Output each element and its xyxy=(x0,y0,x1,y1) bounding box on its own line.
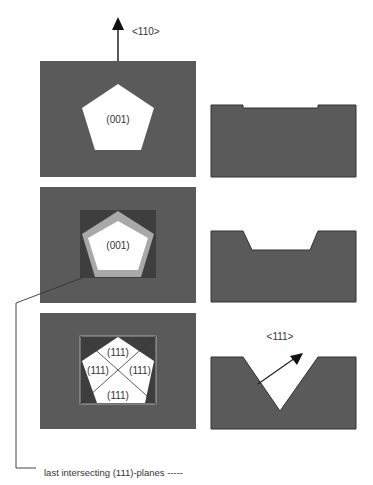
label-001-mid: (001) xyxy=(106,240,129,251)
top-view-stage-1: <110> (001) xyxy=(40,17,196,177)
label-111-bottom: (111) xyxy=(107,390,129,401)
label-110: <110> xyxy=(132,26,160,37)
label-111-direction: <111> xyxy=(267,331,294,342)
etching-diagram: <110> (001) (001) (111) (111) (111) (111… xyxy=(0,0,373,485)
label-111-top: (111) xyxy=(107,347,129,358)
cross-section-stage-2 xyxy=(211,231,356,302)
top-view-stage-2: (001) xyxy=(40,187,196,303)
cross-section-stage-1 xyxy=(211,105,356,177)
top-view-stage-3: (111) (111) (111) (111) xyxy=(40,313,196,429)
label-111-left: (111) xyxy=(87,365,109,376)
caption: last intersecting (111)-planes ----- xyxy=(44,467,183,478)
arrow-110-icon xyxy=(112,17,124,30)
label-111-right: (111) xyxy=(129,365,151,376)
label-001-top: (001) xyxy=(106,114,129,125)
arrow-111-icon xyxy=(290,353,303,365)
cross-section-stage-3: <111> xyxy=(211,331,356,429)
